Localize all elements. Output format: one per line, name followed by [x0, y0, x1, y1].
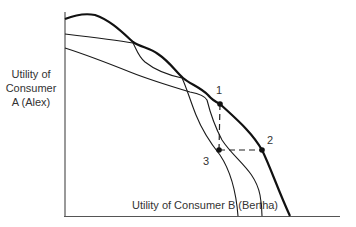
diagram-canvas: [0, 0, 356, 227]
point-1-label: 1: [216, 84, 222, 96]
y-axis-label-line-2: Consumer: [2, 81, 60, 95]
x-axis-label: Utility of Consumer B (Bertha): [60, 199, 350, 211]
utility-possibility-curve-2: [65, 48, 262, 216]
utility-possibility-frontier-envelope: [65, 14, 290, 216]
point-3-label: 3: [203, 155, 209, 167]
y-axis-label-line-1: Utility of: [2, 67, 60, 81]
y-axis-label-line-3: A (Alex): [2, 95, 60, 109]
dashed-line-1-to-3: [219, 104, 220, 150]
y-axis-label: Utility of Consumer A (Alex): [2, 67, 60, 109]
utility-possibility-diagram: Utility of Consumer A (Alex) Utility of …: [0, 0, 356, 227]
utility-possibility-curve-1: [65, 34, 238, 216]
point-2-label: 2: [267, 134, 273, 146]
point-3-marker: [216, 147, 222, 153]
point-1-marker: [217, 101, 223, 107]
point-2-marker: [259, 147, 265, 153]
